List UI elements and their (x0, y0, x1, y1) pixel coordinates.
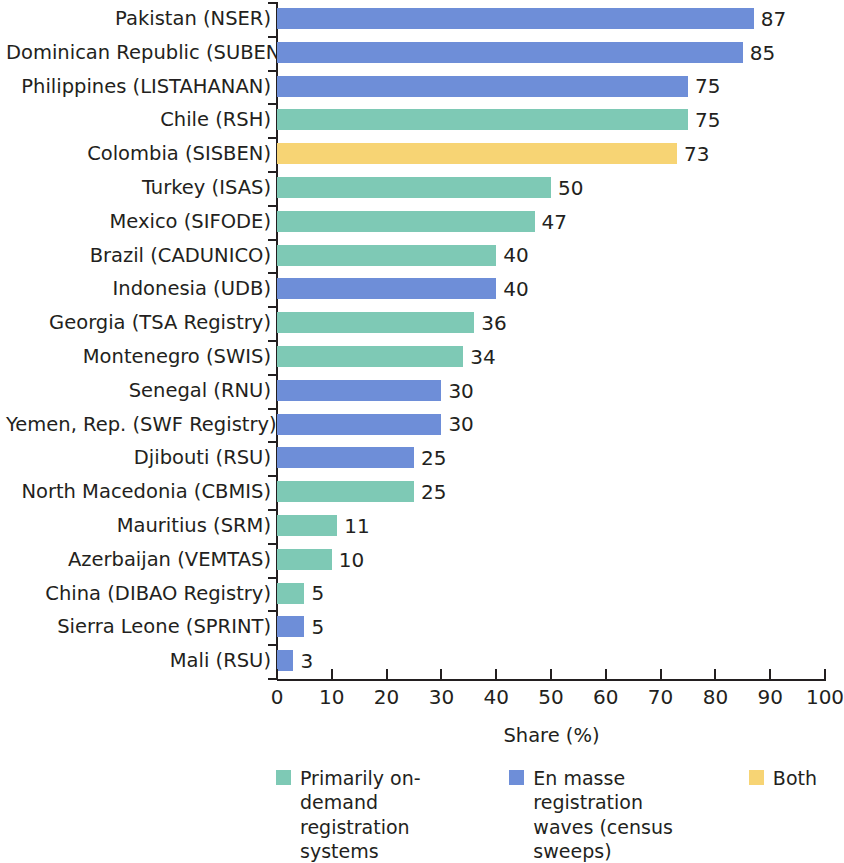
bar-value-label: 25 (421, 448, 446, 468)
legend-label: En masse registration waves (census swee… (533, 766, 726, 863)
bar-row: 50 (277, 171, 825, 205)
y-axis-label: Yemen, Rep. (SWF Registry) (6, 415, 271, 435)
bar-row: 30 (277, 374, 825, 408)
x-axis-tick (769, 669, 771, 680)
bar (277, 549, 332, 570)
y-axis-label: North Macedonia (CBMIS) (6, 482, 271, 502)
bar-row: 5 (277, 610, 825, 644)
legend-item[interactable]: En masse registration waves (census swee… (509, 766, 726, 863)
legend-swatch-icon (276, 770, 291, 785)
y-axis-tick (268, 137, 277, 139)
y-axis-tick (268, 103, 277, 105)
bar-row: 25 (277, 475, 825, 509)
legend-item[interactable]: Both (749, 766, 817, 790)
bar (277, 583, 304, 604)
y-axis-label: Mali (RSU) (6, 651, 271, 671)
bar-value-label: 30 (448, 381, 473, 401)
bar (277, 380, 441, 401)
legend-swatch-icon (509, 770, 524, 785)
bar-row: 40 (277, 272, 825, 306)
x-axis-tick-label: 0 (271, 687, 284, 707)
bar (277, 177, 551, 198)
bar (277, 515, 337, 536)
bar-value-label: 3 (300, 651, 313, 671)
bar (277, 278, 496, 299)
y-axis-label: Mauritius (SRM) (6, 516, 271, 536)
bar-value-label: 50 (558, 178, 583, 198)
x-axis-tick-label: 80 (703, 687, 728, 707)
y-axis-tick (268, 2, 277, 4)
bar-row: 34 (277, 340, 825, 374)
bar-value-label: 25 (421, 482, 446, 502)
y-axis-tick (268, 509, 277, 511)
bar-value-label: 87 (761, 9, 786, 29)
bar (277, 76, 688, 97)
bar-row: 75 (277, 103, 825, 137)
y-axis-tick (268, 644, 277, 646)
bar-row: 5 (277, 577, 825, 611)
bar-value-label: 40 (503, 245, 528, 265)
bar-row: 47 (277, 205, 825, 239)
bar (277, 211, 535, 232)
bar-row: 11 (277, 509, 825, 543)
x-axis-tick-label: 20 (374, 687, 399, 707)
y-axis-tick (268, 374, 277, 376)
x-axis-tick-label: 90 (757, 687, 782, 707)
y-axis-tick (268, 441, 277, 443)
legend-label: Primarily on-demand registration systems (300, 766, 487, 863)
bar-value-label: 5 (311, 617, 324, 637)
bar-row: 40 (277, 239, 825, 273)
y-axis-tick (268, 205, 277, 207)
bar (277, 143, 677, 164)
y-axis-label: Pakistan (NSER) (6, 9, 271, 29)
y-axis-label: China (DIBAO Registry) (6, 584, 271, 604)
y-axis-label: Turkey (ISAS) (6, 178, 271, 198)
bar (277, 481, 414, 502)
x-axis-tick (440, 669, 442, 680)
y-axis-label: Indonesia (UDB) (6, 279, 271, 299)
y-axis-tick (268, 171, 277, 173)
y-axis-label: Colombia (SISBEN) (6, 144, 271, 164)
x-axis-tick (386, 669, 388, 680)
bar-row: 85 (277, 36, 825, 70)
bar-row: 87 (277, 2, 825, 36)
bar (277, 312, 474, 333)
y-axis-label: Senegal (RNU) (6, 381, 271, 401)
bar-row: 25 (277, 441, 825, 475)
x-axis-tick (660, 669, 662, 680)
bar (277, 414, 441, 435)
x-axis-tick-label: 70 (648, 687, 673, 707)
bar (277, 245, 496, 266)
y-axis-tick (268, 543, 277, 545)
x-axis-tick-label: 60 (593, 687, 618, 707)
x-axis-tick (331, 669, 333, 680)
bar-row: 10 (277, 543, 825, 577)
y-axis-tick (268, 70, 277, 72)
y-axis-tick (268, 36, 277, 38)
bar-value-label: 47 (542, 212, 567, 232)
bar-value-label: 5 (311, 583, 324, 603)
bar-value-label: 75 (695, 76, 720, 96)
x-axis-tick (714, 669, 716, 680)
legend-item[interactable]: Primarily on-demand registration systems (276, 766, 487, 863)
x-axis-tick-label: 30 (429, 687, 454, 707)
bar (277, 650, 293, 671)
bar-value-label: 34 (470, 347, 495, 367)
bar (277, 346, 463, 367)
legend-label: Both (773, 766, 817, 790)
bar-value-label: 73 (684, 144, 709, 164)
bar-row: 36 (277, 306, 825, 340)
bar-value-label: 75 (695, 110, 720, 130)
y-axis-tick (268, 306, 277, 308)
y-axis-label: Philippines (LISTAHANAN) (6, 77, 271, 97)
y-axis-label: Georgia (TSA Registry) (6, 313, 271, 333)
bar (277, 109, 688, 130)
x-axis-tick (824, 669, 826, 680)
x-axis-tick-label: 10 (319, 687, 344, 707)
y-axis-label: Azerbaijan (VEMTAS) (6, 550, 271, 570)
y-axis-tick (268, 610, 277, 612)
bar-value-label: 85 (750, 43, 775, 63)
x-axis-tick-label: 100 (806, 687, 844, 707)
bar-value-label: 30 (448, 414, 473, 434)
